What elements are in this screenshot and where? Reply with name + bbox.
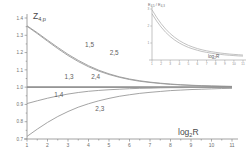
y-tick-label: 0.9 xyxy=(17,102,24,107)
curve-label-2-5: 2,5 xyxy=(110,49,119,56)
y-tick-label: 0.7 xyxy=(17,137,24,142)
curve-label-2-3: 2,3 xyxy=(95,105,104,112)
y-tick-label: 0.8 xyxy=(17,119,24,124)
y-tick-label: 1.2 xyxy=(17,50,24,55)
x-tick-label: 1 xyxy=(26,142,29,148)
x-tick-label: 10 xyxy=(209,142,215,148)
inset-x-tick-label: 9 xyxy=(224,62,226,66)
inset-x-tick-label: 3 xyxy=(169,62,171,66)
inset-y-tick-label: 2 xyxy=(148,24,150,28)
chart-canvas: 0.70.80.91.01.11.21.31.4 1234567891011 1… xyxy=(0,0,249,166)
inset-y-label-denominator-sub: 4,3 xyxy=(161,4,165,8)
inset-x-tick-label: 4 xyxy=(178,62,180,66)
curve-label-1-3: 1,3 xyxy=(65,73,74,80)
inset-x-tick-label: 10 xyxy=(232,62,236,66)
x-tick-label: 5 xyxy=(108,142,111,148)
x-tick-label: 2 xyxy=(46,142,49,148)
inset-x-tick-label: 6 xyxy=(197,62,199,66)
y-tick-label: 1.0 xyxy=(17,85,24,90)
x-tick-label: 6 xyxy=(128,142,131,148)
y-tick-label: 1.1 xyxy=(17,68,24,73)
y-axis-label-subscript: 4,p xyxy=(38,16,46,22)
x-tick-label: 4 xyxy=(87,142,90,148)
x-tick-label: 7 xyxy=(149,142,152,148)
y-tick-label: 1.4 xyxy=(17,16,24,21)
inset-x-tick-label: 5 xyxy=(188,62,190,66)
inset-x-tick-label: 1 xyxy=(151,62,153,66)
inset-x-tick-label: 11 xyxy=(241,62,245,66)
y-tick-label: 1.3 xyxy=(17,33,24,38)
inset-x-tick-label: 8 xyxy=(215,62,217,66)
inset-y-tick-label: 3 xyxy=(148,7,150,11)
x-tick-label: 3 xyxy=(67,142,70,148)
curve-label-1-4: 1,4 xyxy=(54,91,63,98)
figure-container: 0.70.80.91.01.11.21.31.4 1234567891011 1… xyxy=(0,0,249,166)
curve-label-1-5: 1,5 xyxy=(85,41,94,48)
x-tick-label: 9 xyxy=(190,142,193,148)
inset-plot: 123 1234567891011 E4,5 / E4,3 log2R xyxy=(145,2,247,73)
x-axis-label: log2R xyxy=(178,127,199,138)
x-tick-label: 8 xyxy=(169,142,172,148)
inset-x-tick-label: 7 xyxy=(206,62,208,66)
x-tick-label: 11 xyxy=(229,142,234,148)
curve-label-2-4: 2,4 xyxy=(91,73,100,80)
inset-y-tick-label: 1 xyxy=(148,41,150,45)
x-axis-label-base: log xyxy=(178,127,190,137)
x-axis-label-tail: R xyxy=(192,127,198,137)
inset-x-tick-label: 2 xyxy=(160,62,162,66)
